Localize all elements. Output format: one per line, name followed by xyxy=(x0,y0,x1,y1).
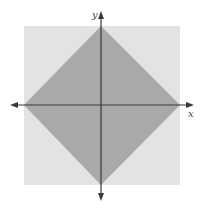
region-diagram: x y xyxy=(0,0,205,208)
arrow-up-icon xyxy=(98,11,104,19)
y-axis-label: y xyxy=(91,9,98,20)
arrow-left-icon xyxy=(10,102,18,108)
x-axis-label: x xyxy=(188,108,194,119)
arrow-down-icon xyxy=(98,193,104,201)
